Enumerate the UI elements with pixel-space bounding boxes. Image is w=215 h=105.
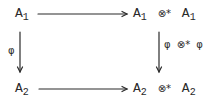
right-arrow-icon xyxy=(157,32,162,72)
left-arrow-icon xyxy=(18,32,23,72)
top-arrow-icon xyxy=(38,12,127,17)
commutative-diagram: A1 A1 ⊗* A1 A2 A2 ⊗* A2 φ φ ⊗* φ xyxy=(0,0,215,105)
arrows xyxy=(0,0,215,105)
bottom-arrow-icon xyxy=(39,87,127,92)
